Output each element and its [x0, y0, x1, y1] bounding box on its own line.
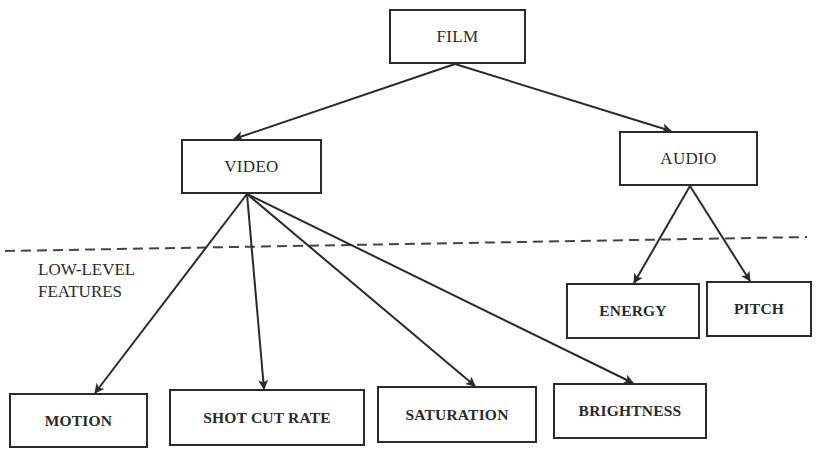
node-saturation: SATURATION [377, 386, 537, 443]
edge-group [95, 64, 750, 393]
node-video: VIDEO [181, 139, 322, 194]
node-brightness: BRIGHTNESS [553, 383, 707, 439]
arrow-film-to-audio [455, 64, 671, 131]
arrow-film-to-video [234, 64, 455, 139]
node-film: FILM [389, 9, 526, 64]
node-audio-label: AUDIO [660, 149, 716, 169]
node-energy: ENERGY [566, 283, 700, 339]
node-motion: MOTION [9, 393, 148, 448]
low-level-label-line-2: FEATURES [38, 281, 135, 303]
node-shot-cut-rate: SHOT CUT RATE [169, 389, 365, 446]
arrow-video-to-shot-cut-rate [247, 194, 264, 389]
node-pitch: PITCH [706, 281, 812, 337]
node-film-label: FILM [437, 27, 479, 47]
node-energy-label: ENERGY [599, 302, 667, 320]
low-level-separator-line [5, 237, 807, 251]
node-motion-label: MOTION [45, 412, 113, 430]
arrow-audio-to-energy [634, 186, 690, 283]
arrow-audio-to-pitch [690, 186, 750, 281]
node-video-label: VIDEO [224, 157, 278, 177]
node-pitch-label: PITCH [734, 300, 784, 318]
node-saturation-label: SATURATION [405, 406, 508, 424]
low-level-label-line-1: LOW-LEVEL [38, 259, 135, 281]
node-audio: AUDIO [619, 131, 758, 186]
diagram-canvas: LOW-LEVEL FEATURES FILM VIDEO AUDIO ENER… [0, 0, 817, 453]
node-brightness-label: BRIGHTNESS [579, 402, 682, 420]
node-shot-cut-rate-label: SHOT CUT RATE [203, 409, 331, 427]
low-level-features-label: LOW-LEVEL FEATURES [38, 259, 135, 303]
